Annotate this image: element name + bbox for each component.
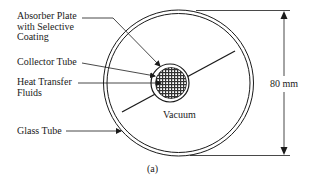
- label-glass-tube: Glass Tube: [17, 126, 62, 137]
- arrow-down-icon: [281, 147, 288, 155]
- label-absorber-line3: Coating: [17, 32, 77, 43]
- label-absorber-line1: Absorber Plate: [17, 11, 77, 22]
- collector-tube-leader: [82, 63, 155, 76]
- label-heat-transfer-line1: Heat Transfer: [17, 77, 72, 88]
- label-dimension: 80 mm: [269, 79, 299, 90]
- label-heat-transfer-line2: Fluids: [17, 88, 72, 99]
- label-collector-tube: Collector Tube: [17, 57, 77, 68]
- figure-caption: (a): [147, 164, 158, 175]
- label-absorber-plate: Absorber Plate with Selective Coating: [17, 11, 77, 43]
- diagram-canvas: Absorber Plate with Selective Coating Co…: [0, 0, 310, 177]
- label-heat-transfer: Heat Transfer Fluids: [17, 77, 72, 98]
- label-vacuum: Vacuum: [163, 110, 196, 121]
- arrow-up-icon: [281, 11, 288, 19]
